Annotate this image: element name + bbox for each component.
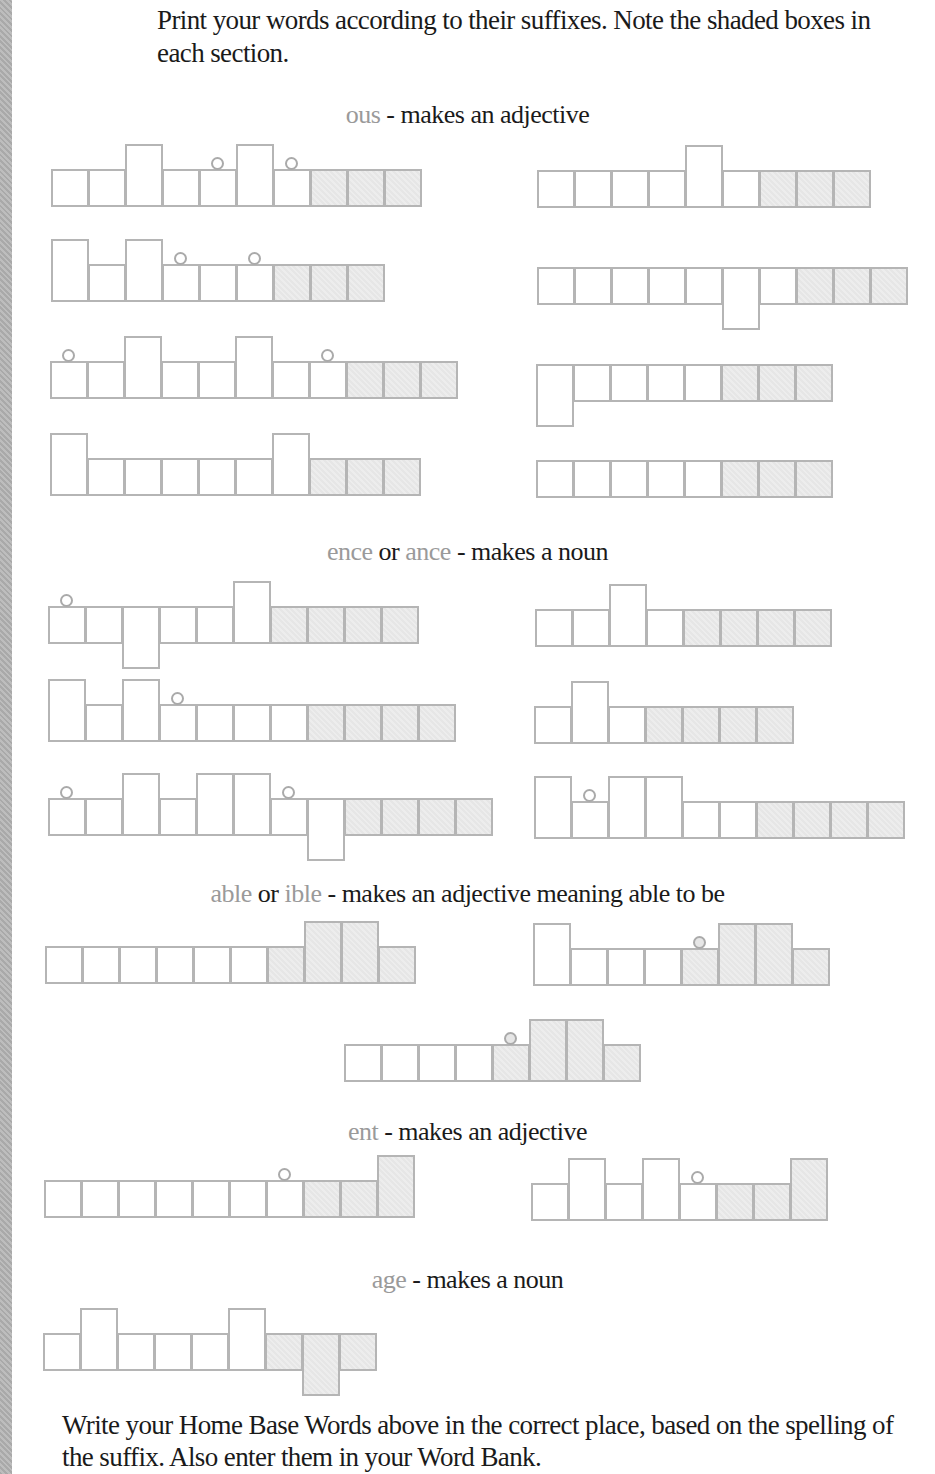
letter-box[interactable] xyxy=(124,336,162,399)
suffix-letter-box[interactable] xyxy=(418,798,456,836)
letter-box[interactable] xyxy=(196,606,234,644)
suffix-letter-box[interactable] xyxy=(383,361,421,399)
letter-box[interactable] xyxy=(572,609,610,647)
suffix-letter-box[interactable] xyxy=(759,170,797,208)
suffix-letter-box[interactable] xyxy=(792,948,830,986)
suffix-letter-box[interactable] xyxy=(307,704,345,742)
suffix-letter-box[interactable] xyxy=(718,923,756,986)
letter-box[interactable] xyxy=(607,948,645,986)
letter-box[interactable] xyxy=(684,364,722,402)
suffix-letter-box[interactable] xyxy=(716,1183,754,1221)
letter-box[interactable] xyxy=(534,776,572,839)
letter-box[interactable] xyxy=(85,704,123,742)
letter-box[interactable] xyxy=(536,460,574,498)
letter-box[interactable] xyxy=(611,170,649,208)
letter-box[interactable] xyxy=(571,681,609,744)
letter-box[interactable] xyxy=(161,361,199,399)
suffix-letter-box[interactable] xyxy=(721,460,759,498)
suffix-letter-box[interactable] xyxy=(833,170,871,208)
letter-box[interactable] xyxy=(531,1183,569,1221)
letter-box[interactable] xyxy=(199,169,237,207)
letter-box[interactable] xyxy=(611,267,649,305)
letter-box[interactable] xyxy=(48,798,86,836)
suffix-letter-box[interactable] xyxy=(796,267,834,305)
letter-box[interactable] xyxy=(230,946,268,984)
letter-box[interactable] xyxy=(573,460,611,498)
suffix-letter-box[interactable] xyxy=(270,606,308,644)
suffix-letter-box[interactable] xyxy=(347,264,385,302)
suffix-letter-box[interactable] xyxy=(681,948,719,986)
letter-box[interactable] xyxy=(159,798,197,836)
letter-box[interactable] xyxy=(381,1044,419,1082)
letter-box[interactable] xyxy=(196,704,234,742)
suffix-letter-box[interactable] xyxy=(529,1019,567,1082)
letter-box[interactable] xyxy=(648,267,686,305)
letter-box[interactable] xyxy=(154,1333,192,1371)
letter-box[interactable] xyxy=(81,1180,119,1218)
letter-box[interactable] xyxy=(270,704,308,742)
letter-box[interactable] xyxy=(236,264,274,302)
suffix-letter-box[interactable] xyxy=(381,798,419,836)
letter-box[interactable] xyxy=(344,1044,382,1082)
suffix-letter-box[interactable] xyxy=(383,458,421,496)
suffix-letter-box[interactable] xyxy=(870,267,908,305)
letter-box[interactable] xyxy=(646,609,684,647)
suffix-letter-box[interactable] xyxy=(756,706,794,744)
letter-box[interactable] xyxy=(233,581,271,644)
suffix-letter-box[interactable] xyxy=(347,169,385,207)
letter-box[interactable] xyxy=(50,361,88,399)
letter-box[interactable] xyxy=(573,364,611,402)
letter-box[interactable] xyxy=(235,336,273,399)
suffix-letter-box[interactable] xyxy=(603,1044,641,1082)
letter-box[interactable] xyxy=(273,169,311,207)
suffix-letter-box[interactable] xyxy=(719,706,757,744)
letter-box[interactable] xyxy=(159,704,197,742)
suffix-letter-box[interactable] xyxy=(310,169,348,207)
suffix-letter-box[interactable] xyxy=(302,1333,340,1396)
letter-box[interactable] xyxy=(124,458,162,496)
letter-box[interactable] xyxy=(608,776,646,839)
letter-box[interactable] xyxy=(266,1180,304,1218)
suffix-letter-box[interactable] xyxy=(341,921,379,984)
suffix-letter-box[interactable] xyxy=(758,460,796,498)
suffix-letter-box[interactable] xyxy=(273,264,311,302)
letter-box[interactable] xyxy=(272,361,310,399)
suffix-letter-box[interactable] xyxy=(455,798,493,836)
letter-box[interactable] xyxy=(117,1333,155,1371)
suffix-letter-box[interactable] xyxy=(682,706,720,744)
letter-box[interactable] xyxy=(199,264,237,302)
letter-box[interactable] xyxy=(159,606,197,644)
suffix-letter-box[interactable] xyxy=(265,1333,303,1371)
letter-box[interactable] xyxy=(236,144,274,207)
suffix-letter-box[interactable] xyxy=(346,361,384,399)
suffix-letter-box[interactable] xyxy=(304,921,342,984)
suffix-letter-box[interactable] xyxy=(339,1333,377,1371)
letter-box[interactable] xyxy=(270,798,308,836)
suffix-letter-box[interactable] xyxy=(377,1155,415,1218)
letter-box[interactable] xyxy=(125,144,163,207)
letter-box[interactable] xyxy=(44,1180,82,1218)
letter-box[interactable] xyxy=(85,798,123,836)
suffix-letter-box[interactable] xyxy=(753,1183,791,1221)
letter-box[interactable] xyxy=(162,264,200,302)
suffix-letter-box[interactable] xyxy=(267,946,305,984)
letter-box[interactable] xyxy=(568,1158,606,1221)
suffix-letter-box[interactable] xyxy=(492,1044,530,1082)
suffix-letter-box[interactable] xyxy=(758,364,796,402)
letter-box[interactable] xyxy=(418,1044,456,1082)
letter-box[interactable] xyxy=(609,584,647,647)
letter-box[interactable] xyxy=(45,946,83,984)
letter-box[interactable] xyxy=(570,948,608,986)
suffix-letter-box[interactable] xyxy=(796,170,834,208)
letter-box[interactable] xyxy=(644,948,682,986)
letter-box[interactable] xyxy=(605,1183,643,1221)
letter-box[interactable] xyxy=(610,460,648,498)
letter-box[interactable] xyxy=(685,145,723,208)
letter-box[interactable] xyxy=(122,606,160,669)
letter-box[interactable] xyxy=(162,169,200,207)
suffix-letter-box[interactable] xyxy=(344,798,382,836)
letter-box[interactable] xyxy=(198,361,236,399)
letter-box[interactable] xyxy=(125,239,163,302)
letter-box[interactable] xyxy=(50,433,88,496)
letter-box[interactable] xyxy=(161,458,199,496)
